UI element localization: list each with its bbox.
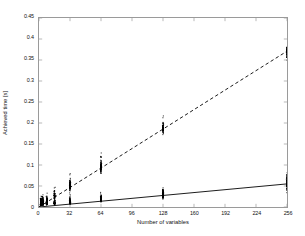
data-point xyxy=(101,160,102,161)
data-point xyxy=(42,201,43,202)
data-point xyxy=(286,188,287,189)
data-point xyxy=(54,202,55,203)
data-point xyxy=(101,195,102,196)
data-point xyxy=(100,156,101,157)
data-point xyxy=(70,173,71,174)
data-point xyxy=(100,171,101,172)
data-point xyxy=(101,161,102,162)
data-point xyxy=(69,192,70,193)
data-point xyxy=(46,197,47,198)
y-tick-label: 0 xyxy=(31,205,34,210)
data-point xyxy=(69,197,70,198)
data-point xyxy=(42,194,43,195)
data-point xyxy=(70,194,71,195)
x-tick-label: 160 xyxy=(190,211,199,216)
data-point xyxy=(162,190,163,191)
data-point xyxy=(286,177,287,178)
x-tick-label: 96 xyxy=(129,211,135,216)
x-tick-label: 0 xyxy=(37,211,40,216)
data-point xyxy=(163,187,164,188)
data-point xyxy=(163,115,164,116)
data-point xyxy=(101,153,102,154)
series-points-lower-series xyxy=(40,172,287,206)
data-point xyxy=(70,179,71,180)
data-point xyxy=(286,176,287,177)
data-point xyxy=(69,196,70,197)
data-point xyxy=(42,205,43,206)
y-tick-label: 0.1 xyxy=(27,163,34,168)
data-point xyxy=(41,198,42,199)
x-tick-label: 224 xyxy=(252,211,261,216)
data-point xyxy=(40,201,41,202)
plot-area xyxy=(38,17,288,208)
data-point xyxy=(101,199,102,200)
data-point xyxy=(163,194,164,195)
data-point xyxy=(69,184,70,185)
x-tick-label: 128 xyxy=(159,211,168,216)
data-point xyxy=(55,187,56,188)
series-points-upper-series xyxy=(40,46,287,205)
x-tick-label: 192 xyxy=(221,211,230,216)
scatter-plot-canvas xyxy=(39,18,287,207)
data-point xyxy=(41,202,42,203)
y-tick-label: 0.25 xyxy=(24,99,34,104)
data-point xyxy=(101,173,102,174)
data-point xyxy=(40,198,41,199)
data-point xyxy=(163,191,164,192)
data-point xyxy=(40,204,41,205)
data-point xyxy=(54,190,55,191)
data-point xyxy=(101,164,102,165)
data-point xyxy=(69,202,70,203)
figure: Achieved time [s] 00.050.10.150.20.250.3… xyxy=(0,0,305,236)
data-point xyxy=(69,199,70,200)
data-point xyxy=(162,117,163,118)
y-tick-label: 0.35 xyxy=(24,57,34,62)
data-point xyxy=(100,165,101,166)
data-point xyxy=(163,133,164,134)
data-point xyxy=(163,125,164,126)
y-axis-tick-labels: 00.050.10.150.20.250.30.350.40.45 xyxy=(0,17,34,208)
y-tick-label: 0.45 xyxy=(24,14,34,19)
data-point xyxy=(286,57,287,58)
data-point xyxy=(41,200,42,201)
data-point xyxy=(47,200,48,201)
data-point xyxy=(286,179,287,180)
data-point xyxy=(70,186,71,187)
data-point xyxy=(69,174,70,175)
x-tick-label: 256 xyxy=(284,211,293,216)
data-point xyxy=(54,187,55,188)
data-point xyxy=(70,178,71,179)
tick-marks xyxy=(39,18,287,207)
data-point xyxy=(42,196,43,197)
x-tick-label: 64 xyxy=(98,211,104,216)
data-point xyxy=(100,157,101,158)
data-point xyxy=(70,182,71,183)
data-point xyxy=(162,134,163,135)
x-tick-label: 32 xyxy=(66,211,72,216)
data-point xyxy=(53,191,54,192)
data-point xyxy=(286,180,287,181)
data-point xyxy=(286,50,287,51)
data-point xyxy=(163,131,164,132)
data-point xyxy=(42,198,43,199)
data-point xyxy=(100,192,101,193)
data-point xyxy=(162,198,163,199)
data-point xyxy=(286,48,287,49)
data-point xyxy=(43,200,44,201)
data-point xyxy=(69,190,70,191)
data-point xyxy=(69,185,70,186)
data-point xyxy=(43,203,44,204)
data-point xyxy=(46,204,47,205)
data-point xyxy=(54,200,55,201)
data-point xyxy=(69,201,70,202)
y-tick-label: 0.05 xyxy=(24,184,34,189)
x-axis-title: Number of variables xyxy=(38,220,288,226)
data-point xyxy=(163,127,164,128)
data-point xyxy=(101,169,102,170)
y-tick-label: 0.4 xyxy=(27,36,34,41)
data-point xyxy=(54,194,55,195)
data-point xyxy=(70,181,71,182)
data-point xyxy=(55,204,56,205)
data-point xyxy=(47,193,48,194)
data-point xyxy=(286,54,287,55)
